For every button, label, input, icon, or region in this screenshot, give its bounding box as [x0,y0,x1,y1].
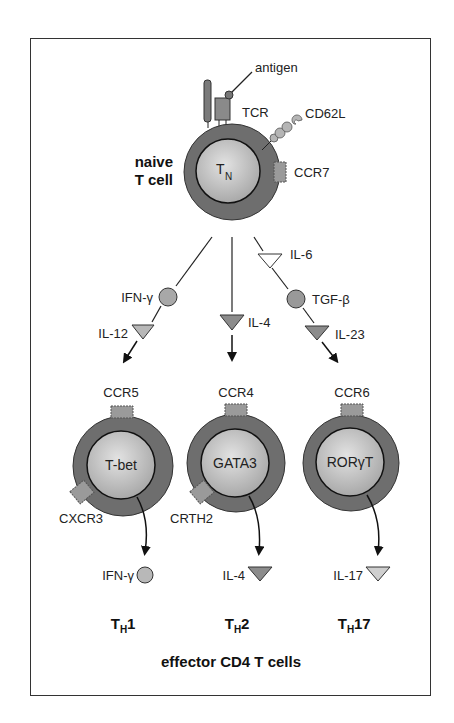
tcr-label: TCR [242,105,269,120]
t-cell-differentiation-diagram: antigen TCR T N CD62L CCR7 naive T cell … [0,0,454,723]
th17-pathway: IL-6 TGF-β IL-23 [254,237,365,360]
naive-core-sub: N [225,171,232,182]
ccr6-label: CCR6 [334,385,369,400]
cd62l-label: CD62L [305,106,345,121]
ccr4-receptor-icon [225,404,247,416]
th1-name-suffix: 1 [127,615,135,632]
antigen-icon [225,91,233,99]
th2-il4-label: IL-4 [248,315,270,330]
th17-output-label: IL-17 [333,568,363,583]
th1-pathway: IFN-γ IL-12 [98,237,212,360]
effector-caption: effector CD4 T cells [161,653,301,670]
th1-il12-label: IL-12 [98,326,128,341]
th1-ifn-gamma-label: IFN-γ [121,290,153,305]
naive-t-cell: antigen TCR T N CD62L CCR7 naive T cell [135,60,346,220]
th17-tgf-beta-label: TGF-β [312,292,350,307]
ifn-gamma-signal-icon [159,288,177,306]
tcr-receptor-icon [215,98,230,120]
il23-signal-icon [305,326,329,340]
th17-effector-cell: CCR6 RORγT IL-17 T H 17 [303,385,399,635]
th1-effector-cell: CCR5 T-bet CXCR3 IFN-γ T H 1 [59,385,173,635]
il12-signal-icon [132,325,154,339]
th2-output-label: IL-4 [223,568,245,583]
tbet-label: T-bet [105,457,137,473]
naive-core-label: T [216,161,225,177]
th2-name-suffix: 2 [241,615,249,632]
antigen-pointer-line [232,72,252,92]
ccr6-receptor-icon [341,404,363,416]
naive-title-line1: naive [135,153,173,170]
ccr5-receptor-icon [111,406,133,418]
antigen-label: antigen [255,60,298,75]
th2-effector-cell: CCR4 GATA3 CRTH2 IL-4 T H 2 [170,385,285,635]
il4-signal-icon [220,315,244,330]
th1-ifn-gamma-output-icon [137,567,153,583]
th17-il6-label: IL-6 [290,247,312,262]
th17-name-main: T [338,615,347,632]
ccr4-label: CCR4 [218,385,253,400]
th2-name-main: T [225,615,234,632]
tcr-alpha-chain [204,80,211,122]
th1-name-main: T [111,615,120,632]
th17-name-suffix: 17 [354,615,371,632]
th2-il4-output-icon [248,567,272,581]
il6-signal-icon [258,254,282,268]
th17-il23-label: IL-23 [335,327,365,342]
cxcr3-label: CXCR3 [59,511,103,526]
ccr5-label: CCR5 [103,385,138,400]
th17-il17-output-icon [366,567,390,581]
naive-title-line2: T cell [135,171,173,188]
tgf-beta-signal-icon [287,290,305,308]
th1-output-label: IFN-γ [102,568,134,583]
ccr7-label: CCR7 [294,165,329,180]
gata3-label: GATA3 [213,455,257,471]
rorgt-label: RORγT [327,454,374,470]
crth2-label: CRTH2 [170,511,213,526]
ccr7-receptor-icon [274,162,286,182]
